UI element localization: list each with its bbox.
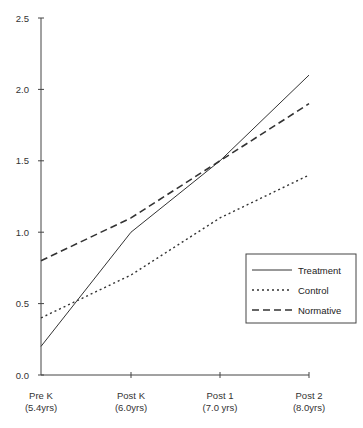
y-axis-labels: 0.00.51.01.52.02.5	[16, 13, 29, 381]
y-tick-label: 2.0	[16, 84, 29, 95]
legend-label-normative: Normative	[298, 305, 341, 316]
x-tick-sublabel: (6.0yrs)	[115, 402, 147, 413]
x-tick-label: Post K	[117, 390, 146, 401]
y-tick-label: 2.5	[16, 13, 29, 24]
legend-label-treatment: Treatment	[298, 265, 341, 276]
y-tick-label: 1.5	[16, 155, 29, 166]
line-chart: 0.00.51.01.52.02.5 Pre K(5.4yrs)Post K(6…	[0, 0, 363, 428]
x-axis-labels: Pre K(5.4yrs)Post K(6.0yrs)Post 1(7.0 yr…	[25, 390, 325, 413]
y-tick-label: 0.5	[16, 298, 29, 309]
x-tick-label: Post 1	[207, 390, 234, 401]
x-tick-sublabel: (5.4yrs)	[25, 402, 57, 413]
x-tick-sublabel: (8.0yrs)	[293, 402, 325, 413]
legend: TreatmentControlNormative	[246, 254, 356, 323]
series-line-normative	[41, 104, 309, 261]
x-tick-sublabel: (7.0 yrs)	[203, 402, 238, 413]
y-tick-label: 0.0	[16, 370, 29, 381]
y-tick-label: 1.0	[16, 227, 29, 238]
legend-label-control: Control	[298, 285, 329, 296]
x-tick-label: Post 2	[296, 390, 323, 401]
x-tick-label: Pre K	[29, 390, 53, 401]
